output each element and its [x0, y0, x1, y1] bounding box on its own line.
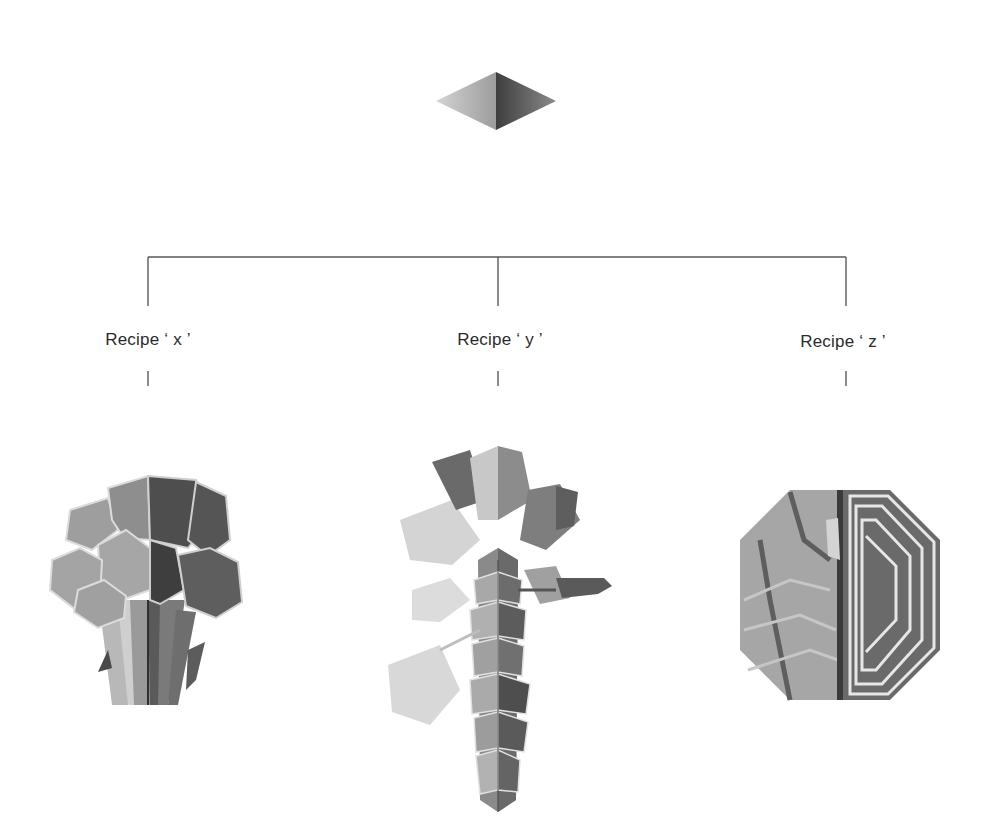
root-diamond-icon — [436, 72, 556, 130]
brussels-sprout-illustration — [388, 446, 612, 812]
recipe-x-label: Recipe ‘ x ’ — [105, 330, 191, 350]
broccoli-illustration — [50, 476, 242, 705]
connector-lines — [148, 257, 846, 386]
recipe-y-label: Recipe ‘ y ’ — [457, 330, 543, 350]
tree-diagram: Recipe ‘ x ’ Recipe ‘ y ’ Recipe ‘ z ’ — [0, 0, 992, 824]
recipe-z-label: Recipe ‘ z ’ — [800, 332, 886, 352]
diagram-graphics — [0, 0, 992, 824]
cabbage-illustration — [740, 490, 940, 700]
